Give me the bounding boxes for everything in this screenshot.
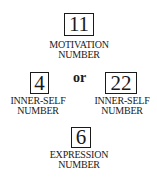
motivation-label-line2: NUMBER bbox=[28, 50, 130, 60]
inner-self-right-label: INNER-SELF NUMBER bbox=[86, 96, 157, 116]
inner-self-left-box: 4 bbox=[30, 72, 49, 94]
or-connector: or bbox=[73, 70, 86, 86]
expression-number-box: 6 bbox=[71, 127, 91, 148]
inner-self-right-line2: NUMBER bbox=[86, 106, 157, 116]
motivation-number-box: 11 bbox=[64, 13, 94, 36]
inner-self-left-label: INNER-SELF NUMBER bbox=[2, 96, 74, 116]
expression-number-label: EXPRESSION NUMBER bbox=[28, 150, 130, 170]
inner-self-left-line2: NUMBER bbox=[2, 106, 74, 116]
inner-self-right-box: 22 bbox=[105, 72, 137, 94]
motivation-number-label: MOTIVATION NUMBER bbox=[28, 40, 130, 60]
expression-label-line2: NUMBER bbox=[28, 160, 130, 170]
